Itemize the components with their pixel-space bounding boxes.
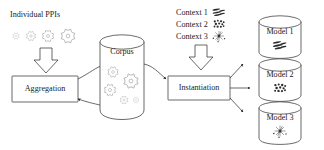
- diagram-canvas: Individual PPIs Aggregation: [0, 0, 324, 150]
- ppi-gear-1: [13, 33, 19, 39]
- model-2-cylinder: [259, 59, 301, 102]
- contexts-to-instantiation-block-arrow: [189, 45, 213, 70]
- corpus-label: Corpus: [110, 47, 133, 56]
- model-3-cylinder: [259, 102, 301, 145]
- model-2-label: Model 2: [266, 70, 293, 79]
- instantiation-to-model-3-arrow: [230, 98, 243, 112]
- ppi-gear-4: [61, 29, 75, 43]
- corpus-to-instantiation-arrow: [144, 64, 166, 79]
- ppi-to-aggregation-block-arrow: [34, 48, 58, 73]
- model-3-label: Model 3: [266, 113, 293, 122]
- ppi-gear-2: [26, 31, 35, 40]
- aggregation-label: Aggregation: [25, 84, 65, 93]
- context-list: Context 1 Context 2 Context 3: [176, 8, 225, 42]
- starburst-icon: [213, 31, 226, 42]
- model-1-label: Model 1: [266, 27, 293, 36]
- model-1-cylinder: [259, 16, 301, 59]
- context-3-label: Context 3: [176, 32, 208, 41]
- pipeline-diagram: Individual PPIs Aggregation: [0, 0, 324, 150]
- ppi-gear-3: [42, 30, 54, 42]
- instantiation-label: Instantiation: [179, 83, 219, 92]
- context-2-label: Context 2: [176, 20, 208, 29]
- instantiation-to-model-1-arrow: [230, 64, 243, 78]
- individual-ppis-label: Individual PPIs: [10, 10, 60, 19]
- dot-cluster-icon: [214, 20, 225, 28]
- context-1-label: Context 1: [176, 8, 208, 17]
- streaks-icon: [212, 8, 225, 16]
- ppi-gear-row: [13, 29, 75, 43]
